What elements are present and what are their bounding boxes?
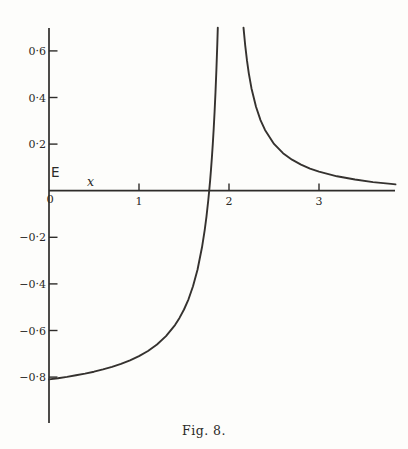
curve-left-branch [49, 28, 218, 380]
curve-right-branch [244, 28, 396, 185]
y-tick-label: −0·2 [19, 231, 46, 244]
y-axis-title: E [51, 164, 60, 180]
curve-group [49, 28, 396, 380]
figure-canvas: 1230·60·40·2−0·2−0·4−0·6−0·8 E x 0 [0, 0, 408, 449]
x-tick-label: 2 [226, 195, 233, 208]
y-tick-label: −0·6 [19, 325, 46, 338]
y-tick-label: 0·6 [29, 45, 47, 58]
figure-page: 1230·60·40·2−0·2−0·4−0·6−0·8 E x 0 Fig. … [0, 0, 408, 449]
y-tick-label: 0·4 [29, 92, 47, 105]
y-tick-label: −0·4 [19, 278, 46, 291]
figure-caption: Fig. 8. [0, 423, 408, 438]
x-tick-label: 1 [136, 195, 143, 208]
x-axis-title: x [87, 174, 94, 189]
x-tick-label: 3 [316, 195, 323, 208]
y-tick-label: −0·8 [19, 371, 46, 384]
axis-ticks: 1230·60·40·2−0·2−0·4−0·6−0·8 [19, 45, 322, 384]
y-tick-label: 0·2 [29, 138, 47, 151]
origin-label: 0 [47, 192, 54, 206]
